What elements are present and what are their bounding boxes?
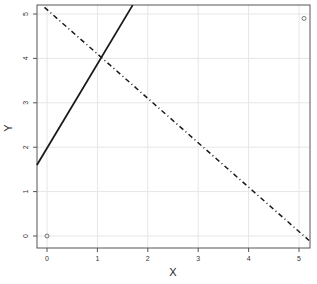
dash-dot-line	[44, 7, 309, 240]
y-tick-label: 0	[22, 234, 29, 238]
data-point	[302, 16, 306, 20]
y-tick-label: 4	[22, 56, 29, 60]
solid-line	[37, 5, 133, 165]
y-tick-label: 3	[22, 101, 29, 105]
x-tick-label: 5	[297, 255, 301, 262]
y-axis-title: Y	[2, 124, 14, 132]
x-tick-label: 0	[45, 255, 49, 262]
x-tick-label: 2	[146, 255, 150, 262]
x-tick-label: 4	[247, 255, 251, 262]
y-tick-label: 5	[22, 12, 29, 16]
y-tick-label: 1	[22, 190, 29, 194]
y-tick-label: 2	[22, 145, 29, 149]
x-tick-label: 3	[196, 255, 200, 262]
x-axis-title: X	[169, 266, 177, 278]
plot-area	[37, 5, 310, 248]
x-tick-label: 1	[95, 255, 99, 262]
data-series	[37, 5, 309, 240]
plot: 012345 012345 X Y	[0, 0, 317, 284]
y-axis: 012345	[22, 12, 37, 238]
plot-frame	[37, 5, 310, 248]
x-axis: 012345	[45, 248, 301, 262]
grid-lines	[37, 5, 310, 248]
